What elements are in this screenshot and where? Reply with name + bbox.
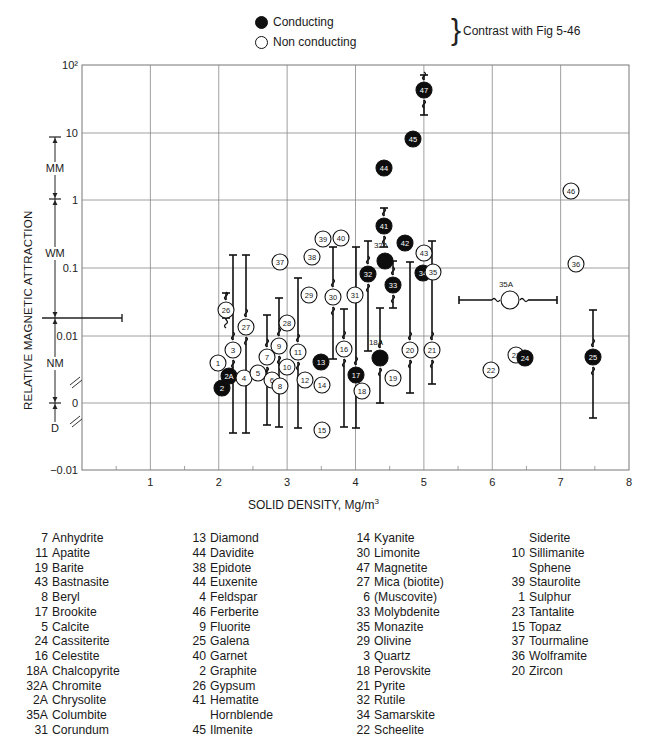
mineral-number: 26	[176, 679, 206, 694]
data-point-15: 15	[314, 422, 330, 438]
x-tick-label: 7	[558, 476, 564, 488]
mineral-number: 45	[176, 723, 206, 738]
mineral-key-item: 40Garnet	[176, 649, 273, 664]
mineral-number: 31	[18, 723, 48, 738]
mineral-name: Celestite	[52, 649, 99, 663]
data-point-44: 44	[376, 160, 392, 176]
mineral-number: 40	[176, 649, 206, 664]
data-point-10: 10	[279, 359, 295, 375]
point-label: 41	[380, 222, 388, 231]
mineral-number: 16	[18, 649, 48, 664]
legend-conducting: Conducting	[255, 14, 334, 30]
mineral-number: 10	[495, 546, 525, 561]
data-point-36: 36	[568, 256, 584, 272]
point-label: 28	[283, 319, 291, 328]
data-point-37: 37	[272, 254, 288, 270]
mineral-name: Olivine	[374, 634, 411, 648]
mineral-name: Fluorite	[210, 620, 251, 634]
data-point-2A: 2A	[221, 368, 237, 384]
mineral-number: 44	[176, 546, 206, 561]
mineral-key-item: 14Kyanite	[340, 531, 444, 546]
data-point-3: 3	[225, 342, 241, 358]
mineral-key-item: 27Mica (biotite)	[340, 575, 444, 590]
mineral-name: Quartz	[374, 649, 411, 663]
mineral-number: 35A	[18, 708, 48, 723]
point-label: 13	[317, 358, 325, 367]
mineral-key-item: Hornblende	[176, 708, 273, 723]
mineral-number: 39	[495, 575, 525, 590]
mineral-key-item: 23Tantalite	[495, 605, 589, 620]
point-label: 10	[283, 363, 291, 372]
mineral-name: Galena	[210, 634, 249, 648]
mineral-name: Cassiterite	[52, 634, 110, 648]
range-bar-32	[364, 241, 372, 351]
zone-label: MM	[46, 162, 64, 174]
data-point-43: 43	[416, 245, 432, 261]
data-point-33: 33	[385, 277, 401, 293]
mineral-key-item: 30Limonite	[340, 546, 444, 561]
mineral-number: 44	[176, 575, 206, 590]
mineral-number: 32	[340, 693, 370, 708]
mineral-key-item: Siderite	[495, 531, 589, 546]
mineral-number: 46	[176, 605, 206, 620]
mineral-name: Garnet	[210, 649, 247, 663]
mineral-name: Ferberite	[210, 605, 259, 619]
mineral-key-item: 8Beryl	[18, 590, 120, 605]
mineral-key-item: 39Staurolite	[495, 575, 589, 590]
data-point-32: 32	[360, 266, 376, 282]
mineral-number: 3	[340, 649, 370, 664]
mineral-name: Sulphur	[529, 590, 571, 604]
mineral-name: Pyrite	[374, 679, 405, 693]
arrowhead-icon	[53, 193, 58, 198]
mineral-name: Calcite	[52, 620, 89, 634]
mineral-key-item: 25Galena	[176, 634, 273, 649]
data-points: 122A345678910111213141516171818A19202122…	[210, 82, 601, 438]
mineral-key-item: 35AColumbite	[18, 708, 120, 723]
data-point-12: 12	[297, 372, 313, 388]
mineral-name: Ilmenite	[210, 723, 253, 737]
data-point-14: 14	[314, 377, 330, 393]
data-point-13: 13	[313, 354, 329, 370]
x-tick-label: 1	[147, 476, 153, 488]
mineral-key-item: 4Feldspar	[176, 590, 273, 605]
point-label: 18	[358, 387, 366, 396]
mineral-number: 22	[340, 723, 370, 738]
data-point-20: 20	[402, 342, 418, 358]
mineral-name: (Muscovite)	[374, 590, 437, 604]
filled-circle-icon	[372, 350, 388, 366]
mineral-name: Brookite	[52, 605, 97, 619]
open-circle-icon	[501, 291, 519, 309]
legend-contrast-note: Contrast with Fig 5-46	[463, 24, 580, 38]
mineral-key-item: 43Bastnasite	[18, 575, 120, 590]
x-tick-label: 8	[626, 476, 632, 488]
mineral-key-item: 24Cassiterite	[18, 634, 120, 649]
data-point-38: 38	[304, 249, 320, 265]
mineral-key-item: 5Calcite	[18, 620, 120, 635]
point-label: 2	[220, 384, 225, 393]
mineral-name: Rutile	[374, 693, 405, 707]
mineral-key-item: 35Monazite	[340, 620, 444, 635]
zone-label: WM	[45, 247, 65, 259]
data-point-22: 22	[483, 362, 499, 378]
mineral-number: 27	[340, 575, 370, 590]
legend-nonconducting: Non conducting	[255, 34, 356, 50]
point-label: 26	[222, 306, 230, 315]
data-point-27: 27	[238, 319, 254, 335]
mineral-number: 36	[495, 649, 525, 664]
data-point-39: 39	[315, 231, 331, 247]
mineral-name: Kyanite	[374, 531, 415, 545]
range-bar-21	[428, 241, 436, 384]
data-point-47: 47	[416, 82, 432, 98]
x-axis-title: SOLID DENSITY, Mg/m3	[248, 497, 379, 512]
point-label: 32A	[374, 241, 389, 250]
point-label: 35A	[499, 280, 514, 289]
range-bar-17	[352, 247, 360, 428]
point-label: 27	[242, 323, 250, 332]
point-label: 7	[265, 353, 270, 362]
point-label: 31	[351, 291, 359, 300]
mineral-number: 29	[340, 634, 370, 649]
mineral-number: 33	[340, 605, 370, 620]
mineral-name: Chrysolite	[52, 693, 106, 707]
mineral-number: 15	[495, 620, 525, 635]
mineral-name: Chromite	[52, 679, 101, 693]
